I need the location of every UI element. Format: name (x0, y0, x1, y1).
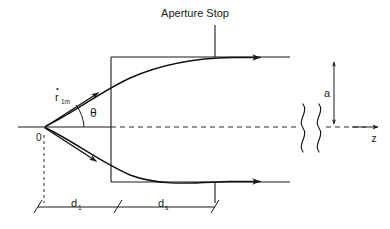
radial-velocity-label-subscript: 1m (61, 98, 70, 105)
z-axis-label: z (372, 133, 377, 144)
origin-label: 0 (36, 132, 42, 143)
d1-label-base: d (71, 197, 77, 209)
d1-label-group: d 1 (71, 197, 82, 211)
ds-label-group: d s (158, 197, 169, 211)
ray-path-upper (46, 58, 232, 127)
optical-ray-diagram: Aperture Stop z θ (0, 0, 390, 229)
theta-label: θ (90, 106, 97, 120)
ds-label-base: d (158, 197, 164, 209)
axis-break-squiggle-icon-right (317, 104, 320, 152)
aperture-height-label: a (324, 87, 331, 99)
overdot-icon (56, 88, 58, 90)
d1-label-subscript: 1 (78, 204, 82, 211)
diagram-canvas: Aperture Stop z θ (0, 0, 390, 229)
radial-velocity-label-group: r 1m (55, 88, 70, 105)
lower-initial-direction-arrow (45, 128, 96, 161)
ray-path-lower (46, 128, 230, 183)
page-title: Aperture Stop (161, 7, 229, 19)
axis-break-squiggle-icon-left (301, 104, 304, 152)
radial-velocity-label-base: r (55, 91, 59, 103)
